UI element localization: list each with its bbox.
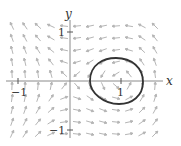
arrowhead-icon: [112, 49, 114, 51]
arrowhead-icon: [118, 109, 120, 111]
arrowhead-icon: [37, 82, 39, 84]
arrowhead-icon: [103, 87, 105, 89]
y-tick-label-neg1: −1: [49, 124, 65, 137]
arrowhead-icon: [91, 121, 93, 123]
arrowhead-icon: [118, 133, 120, 135]
arrowhead-icon: [47, 24, 49, 26]
arrowhead-icon: [130, 96, 132, 98]
arrowhead-icon: [49, 70, 51, 72]
arrowhead-icon: [10, 34, 12, 36]
x-axis-label: x: [166, 74, 173, 88]
arrowhead-icon: [79, 121, 81, 123]
arrowhead-icon: [23, 58, 25, 60]
arrowhead-icon: [11, 106, 13, 108]
arrowhead-icon: [99, 37, 101, 39]
arrowhead-icon: [10, 22, 12, 24]
arrowhead-icon: [65, 96, 67, 98]
arrowhead-icon: [105, 133, 107, 135]
arrowhead-icon: [99, 25, 101, 27]
arrowhead-icon: [91, 110, 93, 112]
arrowhead-icon: [12, 130, 14, 132]
arrowhead-icon: [60, 48, 62, 50]
arrowhead-icon: [73, 37, 75, 39]
arrowhead-icon: [86, 25, 88, 27]
arrowhead-icon: [60, 60, 62, 62]
arrowhead-icon: [99, 49, 101, 51]
arrowhead-icon: [50, 82, 52, 84]
arrowhead-icon: [78, 97, 80, 99]
arrowhead-icon: [24, 106, 26, 108]
arrowhead-icon: [38, 107, 40, 109]
arrowhead-icon: [125, 48, 127, 50]
arrowhead-icon: [131, 120, 133, 122]
arrowhead-icon: [73, 49, 75, 51]
arrowhead-icon: [143, 132, 145, 134]
arrowhead-icon: [154, 82, 156, 84]
arrowhead-icon: [154, 94, 156, 96]
arrowhead-icon: [11, 58, 13, 60]
arrowhead-icon: [154, 70, 156, 72]
arrowhead-icon: [125, 36, 127, 38]
arrowhead-icon: [11, 118, 13, 120]
arrowhead-icon: [11, 82, 13, 84]
phase-portrait: x y −1 1 1 −1: [0, 0, 181, 146]
arrowhead-icon: [11, 70, 13, 72]
arrowhead-icon: [24, 82, 26, 84]
x-tick-label-1: 1: [117, 86, 124, 99]
y-axis-label: y: [64, 7, 72, 21]
arrowhead-icon: [86, 37, 88, 39]
arrowhead-icon: [86, 50, 88, 52]
arrowhead-icon: [112, 61, 114, 63]
x-tick-label-neg1: −1: [11, 86, 27, 99]
arrowhead-icon: [73, 25, 75, 27]
arrowhead-icon: [23, 34, 25, 36]
arrowhead-icon: [125, 25, 127, 27]
arrowhead-icon: [92, 133, 94, 135]
arrowhead-icon: [112, 25, 114, 27]
arrowhead-icon: [104, 110, 106, 112]
arrowhead-icon: [66, 133, 68, 135]
arrowhead-icon: [79, 133, 81, 135]
arrowhead-icon: [112, 37, 114, 39]
arrowhead-icon: [23, 46, 25, 48]
arrowhead-icon: [10, 46, 12, 48]
arrowhead-icon: [118, 121, 120, 123]
arrowhead-icon: [131, 133, 133, 135]
arrowhead-icon: [36, 58, 38, 60]
arrowhead-icon: [153, 58, 155, 60]
arrowhead-icon: [37, 70, 39, 72]
arrowhead-icon: [155, 106, 157, 108]
arrowhead-icon: [104, 121, 106, 123]
arrowhead-icon: [79, 109, 81, 111]
arrowhead-icon: [37, 94, 39, 96]
direction-field: [10, 22, 158, 137]
arrowhead-icon: [24, 70, 26, 72]
arrowhead-icon: [129, 83, 131, 85]
arrowhead-icon: [48, 36, 50, 38]
arrowhead-icon: [138, 24, 140, 26]
arrowhead-icon: [153, 47, 155, 49]
arrowhead-icon: [66, 121, 68, 123]
y-tick-label-1: 1: [58, 26, 65, 39]
arrowhead-icon: [66, 108, 68, 110]
arrowhead-icon: [25, 118, 27, 120]
arrowhead-icon: [73, 61, 75, 63]
arrowhead-icon: [130, 108, 132, 110]
